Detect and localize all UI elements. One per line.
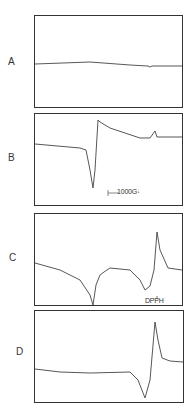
scale-bar-label: 1000G↓ (117, 188, 140, 195)
dpph-label: DPPH (145, 297, 164, 304)
spectra-plot (0, 0, 193, 411)
spectrum-c-line (35, 232, 182, 305)
spectrum-a-line (35, 62, 182, 67)
spectrum-d-line (35, 322, 183, 398)
arrow-down-icon: ↓ (137, 188, 140, 194)
scale-bar-text: 1000G (117, 188, 137, 195)
spectrum-b-line (35, 120, 182, 188)
